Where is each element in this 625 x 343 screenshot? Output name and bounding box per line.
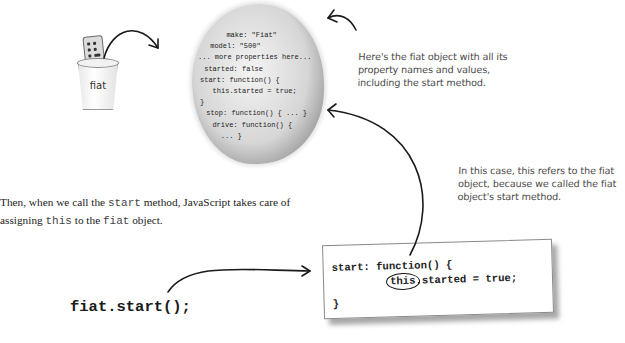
property-line: start: function() { [196, 75, 322, 86]
cup-rim [77, 58, 119, 68]
code-line: } [332, 298, 339, 310]
property-line: make: "Fiat" [196, 30, 322, 41]
property-line: model: "500" [196, 41, 322, 52]
inline-code: fiat [103, 215, 129, 227]
annotation-this-explanation: In this case, this refers to the fiat ob… [457, 164, 618, 203]
arrow-icon [328, 110, 423, 255]
inline-code: start [108, 197, 141, 209]
property-line: stop: function() { ... } [196, 108, 322, 119]
highlight-circle [386, 273, 420, 291]
property-line: } [196, 97, 322, 108]
arrow-icon [104, 31, 158, 58]
text: object. [129, 214, 162, 226]
property-line: drive: function() { [196, 120, 322, 131]
arrow-icon [328, 16, 356, 30]
method-call-expression: fiat.start(); [70, 298, 191, 316]
inline-code: this [46, 215, 72, 227]
text: to the [72, 214, 103, 226]
code-line: start: function() { [331, 259, 452, 274]
property-line: ... more properties here... [196, 52, 322, 63]
text: Then, when we call the [0, 196, 108, 208]
property-line: this.started = true; [196, 86, 322, 97]
code-rest: .started = true; [415, 272, 517, 287]
start-method-code-box: start: function() { this.started = true;… [322, 239, 554, 319]
fiat-object-properties: make: "Fiat" model: "500" ... more prope… [196, 30, 322, 142]
annotation-object-description: Here's the fiat object with all its prop… [357, 50, 518, 89]
body-paragraph: Then, when we call the start method, Jav… [0, 194, 320, 230]
property-line: ... } [196, 131, 322, 142]
arrow-icon [168, 269, 310, 292]
property-line: started: false [196, 64, 322, 75]
variable-label: fiat [84, 80, 112, 91]
